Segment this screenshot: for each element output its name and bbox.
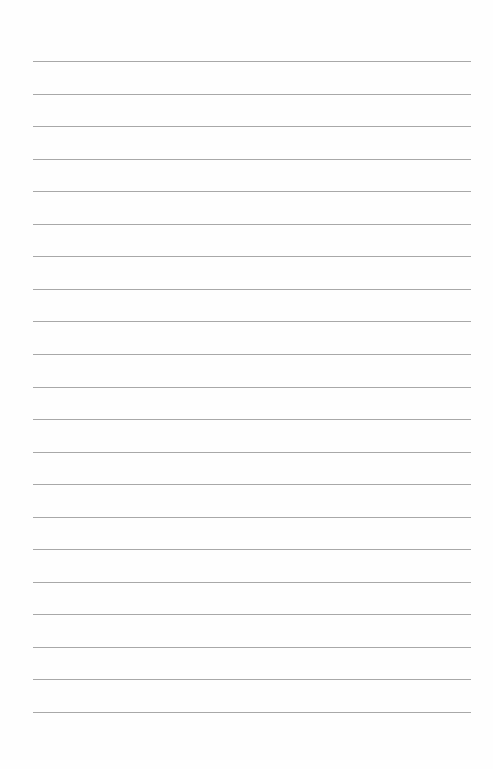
- ruled-line: [33, 614, 471, 615]
- ruled-line: [33, 159, 471, 160]
- ruled-line: [33, 517, 471, 518]
- ruled-line: [33, 61, 471, 62]
- ruled-line: [33, 256, 471, 257]
- ruled-line: [33, 712, 471, 713]
- ruled-line: [33, 549, 471, 550]
- ruled-line: [33, 321, 471, 322]
- ruled-line: [33, 224, 471, 225]
- ruled-line: [33, 647, 471, 648]
- ruled-line: [33, 582, 471, 583]
- ruled-line: [33, 354, 471, 355]
- ruled-line: [33, 94, 471, 95]
- ruled-line: [33, 452, 471, 453]
- ruled-line: [33, 484, 471, 485]
- ruled-line: [33, 679, 471, 680]
- ruled-line: [33, 126, 471, 127]
- ruled-line: [33, 419, 471, 420]
- ruled-line: [33, 191, 471, 192]
- ruled-line: [33, 387, 471, 388]
- lined-paper-page: [0, 0, 493, 769]
- ruled-line: [33, 289, 471, 290]
